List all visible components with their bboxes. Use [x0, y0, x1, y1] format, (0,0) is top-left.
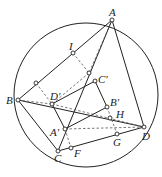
label-H: H	[115, 108, 125, 120]
segment-AC	[58, 20, 112, 151]
label-Dp: D'	[49, 90, 61, 102]
point-Ap	[63, 127, 67, 131]
point-A	[110, 18, 114, 22]
point-Dp	[50, 102, 54, 106]
point-mid	[87, 71, 91, 75]
label-G: G	[113, 136, 121, 148]
point-F	[69, 146, 73, 150]
dashed-Ap-D	[65, 127, 144, 129]
geometry-diagram: A I C' B D' B' H D A' G C F	[0, 0, 162, 177]
diagram-canvas: A I C' B D' B' H D A' G C F	[0, 0, 162, 177]
label-A: A	[108, 6, 116, 18]
label-Bp: B'	[110, 96, 120, 108]
point-Cp	[93, 79, 97, 83]
segment-BD	[18, 100, 144, 127]
label-D: D	[141, 130, 150, 142]
point-D	[142, 125, 146, 129]
label-I: I	[68, 40, 74, 52]
point-H	[108, 116, 112, 120]
label-Cp: C'	[98, 73, 108, 85]
point-B	[16, 98, 20, 102]
dashed-I-perp	[73, 53, 89, 73]
label-Ap: A'	[49, 126, 60, 138]
label-B: B	[6, 94, 13, 106]
label-C: C	[54, 152, 62, 164]
circumcircle	[14, 23, 158, 167]
point-AB-foot	[34, 81, 38, 85]
point-Bp	[105, 105, 109, 109]
label-F: F	[73, 147, 81, 159]
